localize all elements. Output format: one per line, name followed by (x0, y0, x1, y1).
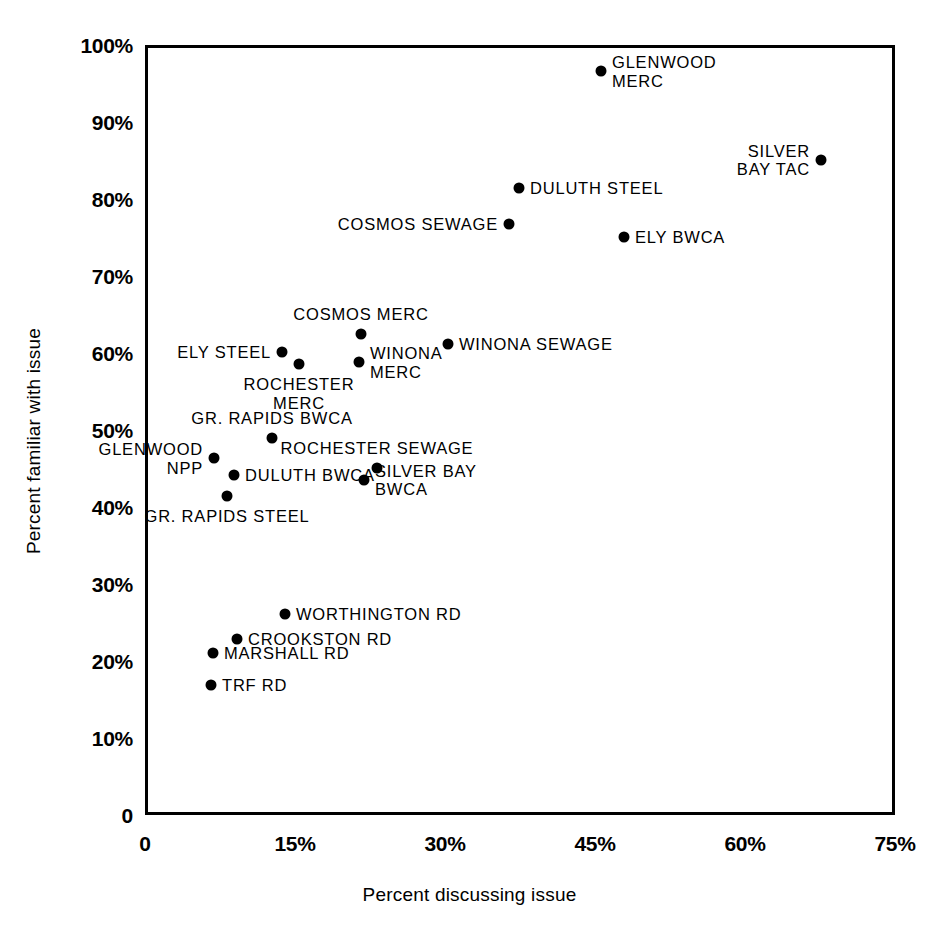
data-point (277, 347, 288, 358)
data-point-label: MARSHALL RD (224, 644, 350, 662)
y-tick-label: 40% (92, 497, 133, 518)
data-point (816, 154, 827, 165)
y-tick-label: 60% (92, 343, 133, 364)
data-point (354, 357, 365, 368)
data-point-label: WINONA MERC (370, 344, 443, 381)
data-point (619, 232, 630, 243)
y-tick-label: 0 (122, 805, 133, 826)
data-point-label: SILVER BAY BWCA (375, 462, 477, 499)
x-tick-label: 75% (874, 833, 915, 854)
data-point-label: TRF RD (222, 676, 287, 694)
scatter-chart-figure: 010%20%30%40%50%60%70%80%90%100% GLENWOO… (0, 0, 939, 925)
y-tick-label: 20% (92, 651, 133, 672)
data-point (229, 469, 240, 480)
data-point-label: GLENWOOD MERC (612, 53, 717, 90)
data-point-label: GLENWOOD NPP (99, 440, 204, 477)
y-tick-label: 50% (92, 420, 133, 441)
data-point (222, 491, 233, 502)
data-point-label: SILVER BAY TAC (737, 141, 810, 178)
y-tick-label: 100% (80, 35, 133, 56)
x-tick-label: 45% (574, 833, 615, 854)
data-point-label: ROCHESTER SEWAGE (281, 438, 474, 456)
data-point-label: GR. RAPIDS BWCA (191, 409, 352, 427)
data-point-label: GR. RAPIDS STEEL (144, 507, 309, 525)
plot-area: GLENWOOD MERCSILVER BAY TACDULUTH STEELC… (145, 45, 895, 815)
data-point (209, 453, 220, 464)
y-tick-label: 70% (92, 266, 133, 287)
data-point (504, 218, 515, 229)
data-point (208, 648, 219, 659)
data-point-label: ROCHESTER MERC (244, 375, 355, 412)
data-point (267, 433, 278, 444)
y-tick-label: 10% (92, 728, 133, 749)
y-tick-label: 80% (92, 189, 133, 210)
data-point (294, 359, 305, 370)
y-tick-label: 90% (92, 112, 133, 133)
data-point-label: COSMOS SEWAGE (338, 214, 498, 232)
x-tick-label: 0 (139, 833, 150, 854)
data-point (443, 339, 454, 350)
data-point (206, 679, 217, 690)
x-axis-title: Percent discussing issue (0, 884, 939, 906)
data-point-label: DULUTH STEEL (530, 179, 663, 197)
data-point-label: ELY BWCA (635, 228, 725, 246)
data-point (514, 183, 525, 194)
y-axis-title: Percent familiar with issue (23, 231, 45, 651)
x-tick-label: 15% (274, 833, 315, 854)
data-point (359, 474, 370, 485)
x-tick-label: 60% (724, 833, 765, 854)
y-tick-label: 30% (92, 574, 133, 595)
data-point-label: ELY STEEL (177, 343, 271, 361)
data-point (280, 608, 291, 619)
data-point-label: COSMOS MERC (293, 305, 428, 323)
data-point-label: WORTHINGTON RD (296, 605, 462, 623)
x-tick-label: 30% (424, 833, 465, 854)
data-point (596, 66, 607, 77)
data-point-label: DULUTH BWCA (245, 465, 375, 483)
data-point (356, 329, 367, 340)
data-point-label: WINONA SEWAGE (459, 335, 613, 353)
